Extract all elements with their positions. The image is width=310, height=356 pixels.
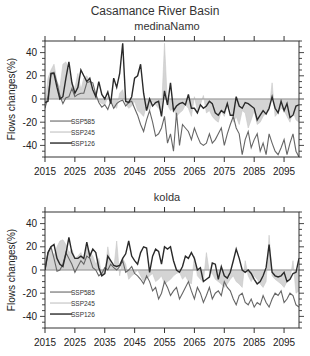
x-tick-label: 2045 <box>124 166 147 177</box>
legend-label-ssp245: SSP245 <box>71 300 95 307</box>
legend-label-ssp245: SSP245 <box>71 129 95 136</box>
x-tick-label: 2015 <box>34 337 57 348</box>
panel-title-kolda: kolda <box>12 191 310 203</box>
legend-label-ssp585: SSP585 <box>71 289 95 296</box>
y-axis-label: Flows changes(%) <box>6 229 17 311</box>
x-tick-label: 2015 <box>34 166 57 177</box>
figure-title: Casamance River Basin <box>0 4 310 18</box>
x-tick-label: 2025 <box>64 166 87 177</box>
legend-label-ssp126: SSP126 <box>71 140 95 147</box>
legend-label-ssp126: SSP126 <box>71 311 95 318</box>
x-tick-label: 2025 <box>64 337 87 348</box>
legend: SSP585SSP245SSP126 <box>50 118 95 147</box>
plot-panel-medinanamo: 201520252035204520552065207520852095-40-… <box>6 36 304 177</box>
plot-area <box>45 235 302 307</box>
x-tick-label: 2055 <box>153 337 176 348</box>
y-tick-label: -40 <box>23 311 38 322</box>
x-tick-label: 2075 <box>213 166 236 177</box>
x-tick-label: 2045 <box>124 337 147 348</box>
x-tick-label: 2085 <box>243 337 266 348</box>
y-tick-label: 20 <box>26 241 38 252</box>
y-tick-label: 40 <box>26 218 38 229</box>
x-tick-label: 2035 <box>94 337 117 348</box>
x-tick-label: 2095 <box>273 166 296 177</box>
x-tick-label: 2065 <box>183 337 206 348</box>
x-tick-label: 2035 <box>94 166 117 177</box>
x-tick-label: 2055 <box>153 166 176 177</box>
legend: SSP585SSP245SSP126 <box>50 289 95 318</box>
x-tick-label: 2095 <box>273 337 296 348</box>
x-tick-label: 2075 <box>213 337 236 348</box>
plot-panel-kolda: 201520252035204520552065207520852095-40-… <box>6 207 304 348</box>
panel-title-medinanamo: medinaNamo <box>12 20 310 32</box>
y-tick-label: 0 <box>31 94 37 105</box>
x-tick-label: 2065 <box>183 166 206 177</box>
legend-label-ssp585: SSP585 <box>71 118 95 125</box>
y-tick-label: 20 <box>26 70 38 81</box>
figure-canvas: 201520252035204520552065207520852095-40-… <box>0 0 310 356</box>
y-tick-label: 0 <box>31 265 37 276</box>
y-tick-label: -40 <box>23 140 38 151</box>
y-axis-label: Flows changes(%) <box>6 58 17 140</box>
x-tick-label: 2085 <box>243 166 266 177</box>
y-tick-label: -20 <box>23 288 38 299</box>
y-tick-label: 40 <box>26 47 38 58</box>
y-tick-label: -20 <box>23 117 38 128</box>
